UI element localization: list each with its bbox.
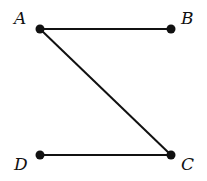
- label-c: C: [181, 154, 194, 174]
- label-a: A: [12, 8, 26, 28]
- label-b: B: [180, 8, 194, 28]
- point-a: [36, 25, 45, 34]
- point-c: [167, 151, 176, 160]
- label-d: D: [13, 154, 28, 174]
- point-b: [167, 25, 176, 34]
- diagram-canvas: A B C D: [0, 0, 207, 181]
- point-d: [36, 151, 45, 160]
- segment-ac: [40, 29, 171, 155]
